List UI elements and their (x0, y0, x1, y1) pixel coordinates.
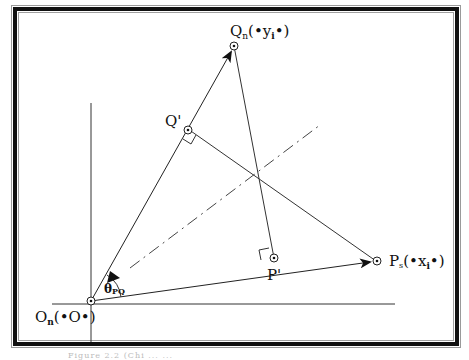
label-q-n: Qn(•yi•) (230, 22, 289, 41)
figure-caption: Figure 2.2 (Chi ... ... (68, 351, 173, 360)
right-angle-marker-q (183, 135, 196, 144)
angle-bisector (130, 125, 320, 268)
projection-line-p (188, 129, 376, 261)
label-q-prime: Q' (165, 112, 181, 130)
vector-oq (91, 52, 231, 301)
point-origin (87, 297, 95, 305)
label-p-prime: P' (267, 266, 281, 284)
vector-op (91, 262, 370, 301)
label-origin: On(•O•) (35, 308, 96, 327)
point-p-prime (270, 254, 278, 262)
point-q-n (230, 42, 238, 50)
label-p-n: Ps(•xi•) (389, 252, 445, 271)
projection-line-q (234, 46, 274, 258)
point-p-n (373, 257, 381, 265)
point-q-prime (184, 126, 192, 134)
angle-label: θPQ (104, 282, 125, 296)
right-angle-marker-p (259, 248, 269, 260)
